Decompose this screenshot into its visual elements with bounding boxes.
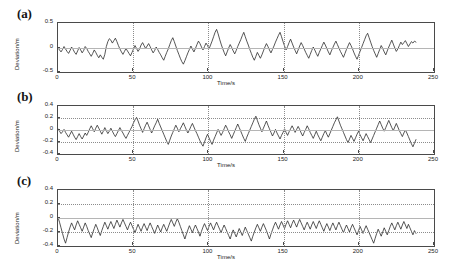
y-tick-label: 0.2 (27, 113, 53, 119)
y-tick-mark (57, 129, 60, 130)
panel-c: (c) Deviation/m Time/s -0.4-0.200.20.405… (0, 172, 449, 265)
gridline-horizontal (58, 218, 434, 219)
x-tick-mark (433, 150, 434, 153)
x-tick-label: 250 (422, 74, 444, 80)
x-tick-mark (207, 150, 208, 153)
y-tick-label: -0.2 (27, 227, 53, 233)
x-tick-label: 0 (46, 74, 68, 80)
panel-c-xlabel: Time/s (206, 254, 246, 260)
y-tick-mark (57, 231, 60, 232)
x-tick-label: 200 (347, 248, 369, 254)
y-tick-label: 0 (27, 213, 53, 219)
x-tick-mark (358, 242, 359, 245)
y-tick-label: -0.4 (27, 241, 53, 247)
y-tick-label: -0.4 (27, 149, 53, 155)
y-tick-mark (57, 189, 60, 190)
x-tick-mark (57, 150, 58, 153)
y-tick-mark (57, 217, 60, 218)
x-tick-mark (283, 242, 284, 245)
y-tick-mark (57, 47, 60, 48)
x-tick-mark (132, 68, 133, 71)
x-tick-label: 200 (347, 156, 369, 162)
y-tick-label: 0 (27, 43, 53, 49)
y-tick-label: 0 (27, 125, 53, 131)
x-tick-label: 0 (46, 156, 68, 162)
panel-c-ylabel: Deviation/m (14, 212, 20, 244)
x-tick-mark (132, 242, 133, 245)
x-tick-mark (433, 242, 434, 245)
gridline-horizontal (58, 118, 434, 119)
x-tick-label: 0 (46, 248, 68, 254)
panel-a-ylabel: Deviation/m (14, 38, 20, 70)
y-tick-mark (57, 22, 60, 23)
y-tick-label: 0.5 (27, 18, 53, 24)
y-tick-mark (57, 117, 60, 118)
panel-a-plot-area (57, 22, 435, 73)
x-tick-mark (207, 242, 208, 245)
y-tick-mark (57, 71, 60, 72)
y-tick-label: 0.2 (27, 199, 53, 205)
gridline-horizontal (58, 130, 434, 131)
x-tick-mark (57, 68, 58, 71)
x-tick-label: 150 (272, 74, 294, 80)
y-tick-label: 0.4 (27, 101, 53, 107)
x-tick-mark (57, 242, 58, 245)
x-tick-label: 100 (196, 74, 218, 80)
panel-a-xlabel: Time/s (206, 80, 246, 86)
y-tick-label: -0.5 (27, 67, 53, 73)
gridline-horizontal (58, 142, 434, 143)
panel-b-xlabel: Time/s (206, 162, 246, 168)
x-tick-label: 50 (121, 248, 143, 254)
x-tick-mark (283, 68, 284, 71)
x-tick-mark (358, 150, 359, 153)
y-tick-label: -0.2 (27, 137, 53, 143)
x-tick-label: 150 (272, 156, 294, 162)
x-tick-label: 100 (196, 156, 218, 162)
panel-c-plot-area (57, 189, 435, 247)
panel-a: (a) Deviation/m Time/s -0.500.5050100150… (0, 0, 449, 88)
y-tick-mark (57, 141, 60, 142)
x-tick-mark (207, 68, 208, 71)
y-tick-mark (57, 105, 60, 106)
gridline-horizontal (58, 48, 434, 49)
panel-b: (b) Deviation/m Time/s -0.4-0.200.20.405… (0, 88, 449, 172)
x-tick-mark (358, 68, 359, 71)
x-tick-label: 100 (196, 248, 218, 254)
panel-b-plot-area (57, 105, 435, 155)
panel-b-ylabel: Deviation/m (14, 120, 20, 152)
x-tick-label: 250 (422, 248, 444, 254)
x-tick-label: 50 (121, 74, 143, 80)
x-tick-label: 200 (347, 74, 369, 80)
gridline-horizontal (58, 232, 434, 233)
x-tick-mark (283, 150, 284, 153)
y-tick-mark (57, 153, 60, 154)
gridline-horizontal (58, 204, 434, 205)
x-tick-mark (132, 150, 133, 153)
y-tick-label: 0.4 (27, 185, 53, 191)
x-tick-label: 50 (121, 156, 143, 162)
y-tick-mark (57, 245, 60, 246)
x-tick-label: 150 (272, 248, 294, 254)
x-tick-label: 250 (422, 156, 444, 162)
figure-three-panel-timeseries: (a) Deviation/m Time/s -0.500.5050100150… (0, 0, 449, 265)
y-tick-mark (57, 203, 60, 204)
x-tick-mark (433, 68, 434, 71)
